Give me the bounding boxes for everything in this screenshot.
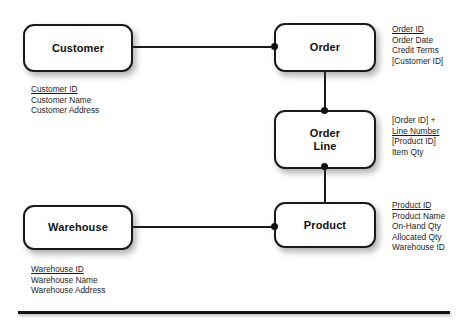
entity-order-line[interactable]: Order Line — [274, 110, 376, 169]
attribute-product-id: Product ID — [392, 200, 445, 211]
entity-order[interactable]: Order — [274, 23, 376, 72]
attribute-customer-address: Customer Address — [31, 105, 99, 116]
attribute-product-warehouse-id: Warehouse ID — [392, 242, 445, 253]
relationship-endpoint-order — [271, 43, 278, 50]
attribute-warehouse-address: Warehouse Address — [31, 285, 105, 296]
attribute-list-warehouse: Warehouse ID Warehouse Name Warehouse Ad… — [31, 264, 105, 296]
bottom-divider — [18, 311, 450, 314]
attribute-list-customer: Customer ID Customer Name Customer Addre… — [31, 84, 99, 116]
attribute-orderline-order-id-fk: [Order ID] + — [392, 115, 440, 126]
entity-order-label: Order — [310, 41, 340, 54]
attribute-list-product: Product ID Product Name On-Hand Qty Allo… — [392, 200, 445, 253]
entity-product-label: Product — [304, 219, 346, 232]
entity-customer[interactable]: Customer — [23, 24, 133, 72]
relationship-endpoint-product — [271, 223, 278, 230]
attribute-order-customer-id-fk: [Customer ID] — [392, 56, 443, 67]
attribute-product-name: Product Name — [392, 211, 445, 222]
attribute-customer-id: Customer ID — [31, 84, 99, 95]
attribute-order-id: Order ID — [392, 24, 443, 35]
entity-order-line-label: Order Line — [310, 127, 340, 153]
attribute-orderline-item-qty: Item Qty — [392, 147, 440, 158]
entity-customer-label: Customer — [52, 42, 104, 55]
attribute-warehouse-name: Warehouse Name — [31, 275, 105, 286]
attribute-orderline-product-id-fk: [Product ID] — [392, 136, 440, 147]
attribute-product-allocated-qty: Allocated Qty — [392, 232, 445, 243]
attribute-list-order: Order ID Order Date Credit Terms [Custom… — [392, 24, 443, 66]
attribute-warehouse-id: Warehouse ID — [31, 264, 105, 275]
relationship-line-warehouse-product — [131, 226, 277, 228]
attribute-orderline-line-number: Line Number — [392, 126, 440, 137]
relationship-line-orderline-product — [324, 166, 326, 206]
entity-product[interactable]: Product — [274, 202, 376, 248]
entity-warehouse-label: Warehouse — [48, 221, 108, 234]
relationship-endpoint-orderline-top — [321, 107, 328, 114]
attribute-customer-name: Customer Name — [31, 95, 99, 106]
attribute-product-on-hand-qty: On-Hand Qty — [392, 221, 445, 232]
relationship-line-customer-order — [131, 46, 277, 48]
attribute-order-date: Order Date — [392, 35, 443, 46]
attribute-order-credit-terms: Credit Terms — [392, 45, 443, 56]
er-diagram-canvas: Customer Customer ID Customer Name Custo… — [0, 0, 468, 324]
entity-warehouse[interactable]: Warehouse — [23, 205, 133, 250]
attribute-list-order-line: [Order ID] + Line Number [Product ID] It… — [392, 115, 440, 157]
relationship-endpoint-orderline-bottom — [321, 163, 328, 170]
